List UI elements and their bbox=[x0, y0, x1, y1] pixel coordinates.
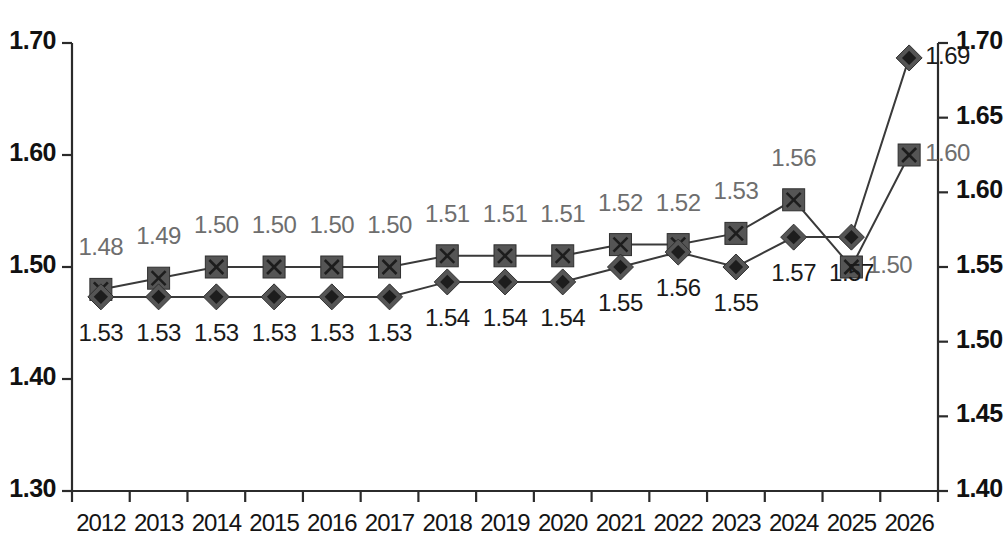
y-axis-left-tick-label: 1.50 bbox=[9, 250, 56, 279]
chart-container: 1.301.401.501.601.701.401.451.501.551.60… bbox=[0, 0, 1006, 555]
y-axis-left-tick-label: 1.70 bbox=[9, 26, 56, 55]
y-axis-right-tick-label: 1.45 bbox=[956, 399, 1003, 428]
y-axis-right-tick-label: 1.60 bbox=[956, 175, 1003, 204]
data-point-label: 1.53 bbox=[696, 177, 776, 205]
data-point-label: 1.56 bbox=[754, 144, 834, 172]
y-axis-right-tick-label: 1.65 bbox=[956, 101, 1003, 130]
data-point-label: 1.57 bbox=[811, 259, 891, 287]
y-axis-right-tick-label: 1.40 bbox=[956, 474, 1003, 503]
y-axis-left-tick-label: 1.30 bbox=[9, 474, 56, 503]
data-point-label: 1.69 bbox=[925, 42, 995, 70]
y-axis-left-tick-label: 1.60 bbox=[9, 138, 56, 167]
x-axis-tick-label: 2026 bbox=[869, 509, 949, 537]
data-point-label: 1.55 bbox=[696, 289, 776, 317]
y-axis-right-tick-label: 1.50 bbox=[956, 325, 1003, 354]
data-point-label: 1.60 bbox=[925, 139, 995, 167]
y-axis-left-tick-label: 1.40 bbox=[9, 362, 56, 391]
y-axis-right-tick-label: 1.55 bbox=[956, 250, 1003, 279]
